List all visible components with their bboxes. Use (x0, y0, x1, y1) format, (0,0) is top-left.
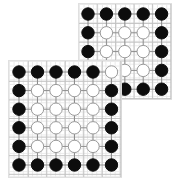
lattice-node-white (68, 122, 80, 134)
lattice-node-black (105, 159, 117, 171)
lattice-node-black (13, 66, 25, 78)
lattice-panel-bottom-left-lattice (8, 60, 122, 178)
lattice-node-white (31, 122, 43, 134)
lattice-node-white (68, 103, 80, 115)
lattice-node-black (119, 8, 131, 20)
lattice-node-white (31, 140, 43, 152)
lattice-node-white (100, 27, 112, 39)
lattice-node-black (50, 159, 62, 171)
lattice-graph (8, 60, 122, 178)
lattice-node-black (13, 103, 25, 115)
lattice-node-white (50, 103, 62, 115)
lattice-node-white (87, 103, 99, 115)
lattice-node-black (105, 122, 117, 134)
lattice-node-white (137, 64, 149, 76)
lattice-node-white (137, 27, 149, 39)
lattice-node-white (105, 66, 117, 78)
lattice-node-black (137, 8, 149, 20)
lattice-node-white (87, 122, 99, 134)
lattice-node-white (87, 140, 99, 152)
lattice-node-black (13, 159, 25, 171)
lattice-node-black (82, 8, 94, 20)
lattice-node-black (105, 84, 117, 96)
lattice-node-white (119, 45, 131, 57)
lattice-node-black (137, 83, 149, 95)
lattice-node-white (137, 45, 149, 57)
lattice-node-black (155, 27, 167, 39)
lattice-node-black (13, 84, 25, 96)
lattice-node-white (50, 140, 62, 152)
lattice-node-black (68, 66, 80, 78)
lattice-node-white (87, 84, 99, 96)
lattice-node-black (155, 8, 167, 20)
lattice-node-white (119, 27, 131, 39)
lattice-figure (0, 0, 182, 184)
lattice-node-black (31, 66, 43, 78)
lattice-node-black (13, 140, 25, 152)
lattice-node-black (82, 45, 94, 57)
lattice-node-black (105, 140, 117, 152)
lattice-node-black (155, 64, 167, 76)
major-gridlines (9, 61, 121, 177)
lattice-node-black (68, 159, 80, 171)
lattice-node-black (31, 159, 43, 171)
lattice-node-black (13, 122, 25, 134)
lattice-node-white (68, 140, 80, 152)
lattice-node-white (50, 84, 62, 96)
lattice-node-black (50, 66, 62, 78)
lattice-node-black (105, 103, 117, 115)
lattice-node-black (155, 45, 167, 57)
lattice-node-white (31, 84, 43, 96)
lattice-node-black (100, 8, 112, 20)
lattice-node-white (100, 45, 112, 57)
lattice-node-black (155, 83, 167, 95)
lattice-node-white (50, 122, 62, 134)
lattice-node-black (87, 159, 99, 171)
lattice-node-black (87, 66, 99, 78)
lattice-node-black (82, 27, 94, 39)
lattice-node-white (31, 103, 43, 115)
lattice-node-white (68, 84, 80, 96)
